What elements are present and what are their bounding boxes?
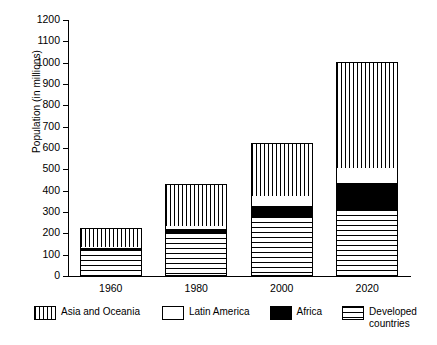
bar-segment-developed-countries <box>165 233 227 276</box>
y-tick-label: 200 <box>18 226 60 238</box>
bar-segment-developed-countries <box>80 250 142 276</box>
legend-swatch-icon <box>34 306 56 320</box>
x-tick-label-1960: 1960 <box>71 282 151 294</box>
bar-2000[interactable] <box>251 143 313 276</box>
legend-swatch-icon <box>270 306 292 320</box>
y-tick-mark <box>63 169 68 170</box>
y-tick-label: 0 <box>18 269 60 281</box>
bar-1960[interactable] <box>80 228 142 276</box>
y-tick-mark <box>63 191 68 192</box>
stacked-bar-chart: Population (in millions) 010020030040050… <box>0 0 437 345</box>
y-tick-label: 600 <box>18 141 60 153</box>
y-tick-mark <box>63 63 68 64</box>
y-tick-mark <box>63 148 68 149</box>
legend-label: Asia and Oceania <box>61 306 140 318</box>
x-tick-label-2000: 2000 <box>242 282 322 294</box>
bar-segment-asia-and-oceania <box>80 228 142 247</box>
y-tick-mark <box>63 127 68 128</box>
bar-segment-latin-america <box>336 168 398 183</box>
y-tick-label: 100 <box>18 248 60 260</box>
y-tick-label: 1000 <box>18 56 60 68</box>
bar-segment-asia-and-oceania <box>251 143 313 196</box>
bar-segment-latin-america <box>251 196 313 206</box>
y-tick-mark <box>63 276 68 277</box>
legend-label: Latin America <box>189 306 250 318</box>
bar-segment-asia-and-oceania <box>165 184 227 226</box>
legend-swatch-icon <box>342 306 364 320</box>
legend-swatch-icon <box>162 306 184 320</box>
y-tick-mark <box>63 41 68 42</box>
legend-item-developed-countries[interactable]: Developed countries <box>342 306 417 329</box>
y-tick-label: 800 <box>18 98 60 110</box>
y-tick-mark <box>63 105 68 106</box>
plot-area: 0100200300400500600700800900100011001200… <box>68 20 410 276</box>
bar-2020[interactable] <box>336 62 398 276</box>
y-tick-mark <box>63 84 68 85</box>
y-tick-label: 1200 <box>18 13 60 25</box>
bar-segment-developed-countries <box>336 210 398 276</box>
y-tick-label: 1100 <box>18 34 60 46</box>
y-tick-mark <box>63 233 68 234</box>
bar-segment-africa <box>336 183 398 210</box>
y-axis-line <box>68 20 69 276</box>
y-tick-label: 400 <box>18 184 60 196</box>
legend-item-africa[interactable]: Africa <box>270 306 323 320</box>
bar-segment-africa <box>251 206 313 218</box>
y-tick-label: 700 <box>18 120 60 132</box>
y-tick-label: 900 <box>18 77 60 89</box>
y-tick-mark <box>63 212 68 213</box>
x-tick-label-2020: 2020 <box>327 282 407 294</box>
y-tick-label: 300 <box>18 205 60 217</box>
bar-segment-asia-and-oceania <box>336 62 398 169</box>
bar-segment-developed-countries <box>251 217 313 276</box>
y-tick-mark <box>63 20 68 21</box>
y-tick-mark <box>63 255 68 256</box>
legend-label: Developed countries <box>369 306 417 329</box>
x-tick-label-1980: 1980 <box>156 282 236 294</box>
chart-legend: Asia and OceaniaLatin AmericaAfricaDevel… <box>34 306 434 329</box>
bar-1980[interactable] <box>165 184 227 276</box>
legend-label: Africa <box>297 306 323 318</box>
x-axis-line <box>68 276 411 277</box>
legend-item-asia-and-oceania[interactable]: Asia and Oceania <box>34 306 140 320</box>
y-tick-label: 500 <box>18 162 60 174</box>
legend-item-latin-america[interactable]: Latin America <box>162 306 250 320</box>
